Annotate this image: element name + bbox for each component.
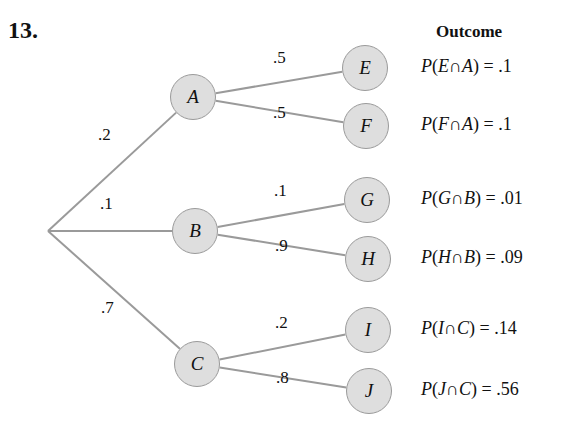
branch-a-e	[216, 72, 343, 93]
prob-label-g: .1	[274, 181, 287, 201]
prob-label-e: .5	[273, 48, 286, 68]
node-i: I	[345, 307, 391, 353]
prob-label-c: .7	[101, 298, 114, 318]
outcome-h: P(H∩B) = .09	[421, 247, 523, 268]
branch-c-i	[220, 334, 346, 359]
outcome-g: P(G∩B) = .01	[421, 188, 523, 209]
prob-label-a: .2	[98, 125, 111, 145]
outcome-e: P(E∩A) = .1	[421, 56, 512, 77]
prob-label-h: .9	[275, 236, 288, 256]
prob-label-b: .1	[100, 194, 113, 214]
node-a: A	[170, 74, 216, 120]
node-j: J	[346, 368, 392, 414]
prob-label-j: .8	[276, 368, 289, 388]
probability-tree-figure: 13. Outcome ABCEFGHIJ .2.1.7.5.5.1.9.2.8…	[0, 0, 563, 430]
outcome-i: P(I∩C) = .14	[421, 318, 517, 339]
prob-label-f: .5	[273, 103, 286, 123]
node-g: G	[344, 177, 390, 223]
branch-b-g	[218, 204, 345, 227]
node-h: H	[345, 236, 391, 282]
node-b: B	[172, 208, 218, 254]
branch-root-c	[48, 231, 180, 349]
node-f: F	[343, 103, 389, 149]
outcome-f: P(F∩A) = .1	[421, 114, 512, 135]
node-c: C	[174, 341, 220, 387]
node-e: E	[342, 45, 388, 91]
prob-label-i: .2	[275, 313, 288, 333]
outcome-j: P(J∩C) = .56	[421, 379, 519, 400]
